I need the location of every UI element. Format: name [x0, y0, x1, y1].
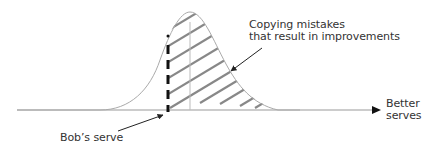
axis-label-line2: serves: [386, 110, 421, 122]
bob-pointer-arrow: [118, 115, 163, 131]
axis-arrowhead-icon: [372, 106, 381, 114]
bobs-serve-marker: [167, 35, 170, 113]
mistakes-pointer-arrow: [231, 48, 262, 71]
mistakes-label: Copying mistakes that result in improvem…: [249, 19, 400, 43]
axis-label: Better serves: [386, 98, 421, 122]
bobs-serve-label: Bob’s serve: [60, 132, 123, 144]
mistakes-label-line2: that result in improvements: [249, 31, 400, 43]
